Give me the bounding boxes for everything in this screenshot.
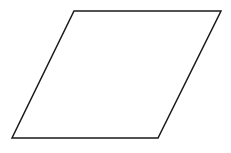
diagram-canvas [0,0,231,153]
